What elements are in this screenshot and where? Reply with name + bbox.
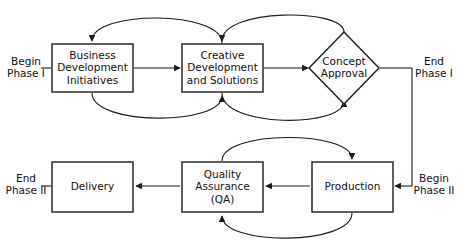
node-creative-development-and-solutions-label-line-0: Creative xyxy=(200,49,244,61)
phase-label-begin-phase-1-line-1: Phase I xyxy=(7,67,45,79)
edge-creative-dev-back-to-business-dev xyxy=(92,18,222,43)
edge-concept-approval-back-to-creative-dev xyxy=(222,15,344,41)
node-quality-assurance-label-line-0: Quality xyxy=(204,168,242,180)
edge-business-dev-forward-to-creative-dev xyxy=(92,93,222,118)
node-business-development-initiatives-label-line-2: Initiatives xyxy=(67,74,118,86)
node-quality-assurance-label-line-2: (QA) xyxy=(211,193,235,205)
phase-label-end-phase-1-line-1: Phase I xyxy=(415,67,453,79)
phase-label-end-phase-1: EndPhase I xyxy=(415,55,453,80)
node-delivery-label-line-0: Delivery xyxy=(71,180,115,192)
phase-label-begin-phase-2: BeginPhase II xyxy=(414,172,455,197)
node-concept-approval[interactable]: ConceptApproval xyxy=(309,32,379,104)
node-creative-development-and-solutions-label-line-1: Development xyxy=(187,61,258,73)
edge-quality-assurance-to-production-loop xyxy=(222,137,352,161)
phase-label-end-phase-2-line-0: End xyxy=(16,172,36,184)
node-quality-assurance[interactable]: QualityAssurance(QA) xyxy=(182,162,263,212)
node-creative-development-and-solutions-label-line-2: and Solutions xyxy=(187,74,258,86)
node-delivery[interactable]: Delivery xyxy=(52,162,133,212)
node-business-development-initiatives-label-line-1: Development xyxy=(57,61,128,73)
phase-label-begin-phase-1: BeginPhase I xyxy=(7,55,45,80)
node-creative-development-and-solutions[interactable]: CreativeDevelopmentand Solutions xyxy=(182,44,263,92)
node-concept-approval-label-line-1: Approval xyxy=(321,67,368,79)
phase-label-end-phase-2-line-1: Phase II xyxy=(6,184,47,196)
flowchart-svg: BusinessDevelopmentInitiativesCreativeDe… xyxy=(0,0,461,249)
flowchart-canvas: BusinessDevelopmentInitiativesCreativeDe… xyxy=(0,0,461,249)
node-quality-assurance-label-line-1: Assurance xyxy=(195,180,249,192)
edge-production-back-to-quality-assurance-loop xyxy=(222,213,352,238)
phase-label-begin-phase-1-line-0: Begin xyxy=(11,55,41,67)
node-production[interactable]: Production xyxy=(312,162,393,212)
node-business-development-initiatives-label-line-0: Business xyxy=(69,49,115,61)
phase-label-end-phase-2: EndPhase II xyxy=(6,172,47,197)
edge-creative-dev-forward-to-concept-approval xyxy=(222,93,344,120)
node-concept-approval-label-line-0: Concept xyxy=(322,55,365,67)
phase-label-begin-phase-2-line-0: Begin xyxy=(419,172,449,184)
node-business-development-initiatives[interactable]: BusinessDevelopmentInitiatives xyxy=(52,44,133,92)
nodes-layer: BusinessDevelopmentInitiativesCreativeDe… xyxy=(52,32,393,212)
node-production-label-line-0: Production xyxy=(325,180,381,192)
phase-label-begin-phase-2-line-1: Phase II xyxy=(414,184,455,196)
phase-label-end-phase-1-line-0: End xyxy=(424,55,444,67)
